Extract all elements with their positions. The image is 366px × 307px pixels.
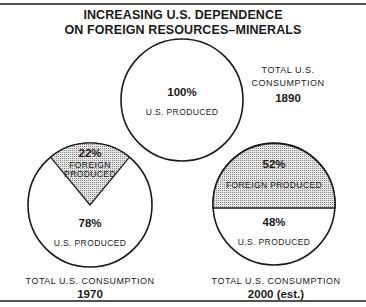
caption-1970-year: 1970 [77, 288, 103, 300]
caption-1890: TOTAL U.S. CONSUMPTION 1890 [252, 65, 325, 104]
pie-1970-foreign-pct: 22% [78, 147, 101, 159]
pie-1890-us-pct: 100% [167, 86, 196, 98]
pie-2000: 52% FOREIGN PRODUCED 48% U.S. PRODUCED [213, 143, 335, 265]
caption-2000-line: TOTAL U.S. CONSUMPTION [212, 276, 341, 286]
pie-1970-us-pct: 78% [78, 217, 101, 229]
chart-title-line2: ON FOREIGN RESOURCES–MINERALS [65, 23, 302, 37]
caption-2000-year: 2000 (est.) [248, 288, 304, 300]
pie-1890-us-slice [121, 39, 243, 161]
pie-2000-us-pct: 48% [262, 216, 285, 228]
chart-title-line1: INCREASING U.S. DEPENDENCE [83, 8, 282, 22]
caption-1890-line2: CONSUMPTION [252, 78, 325, 88]
pie-2000-foreign-pct: 52% [262, 158, 285, 170]
pie-1890-us-label: U.S. PRODUCED [146, 107, 219, 117]
pie-1890: 100% U.S. PRODUCED [121, 39, 243, 161]
pie-1970: 22% FOREIGN PRODUCED 78% U.S. PRODUCED [28, 143, 152, 267]
pie-1970-foreign-label-line2: PRODUCED [64, 169, 116, 179]
pie-2000-us-label: U.S. PRODUCED [238, 237, 311, 247]
pie-2000-foreign-label: FOREIGN PRODUCED [226, 180, 322, 190]
chart-figure: INCREASING U.S. DEPENDENCE ON FOREIGN RE… [0, 0, 366, 307]
caption-1970-line: TOTAL U.S. CONSUMPTION [26, 276, 155, 286]
caption-1890-line1: TOTAL U.S. [262, 65, 315, 75]
pie-2000-foreign-slice [213, 144, 335, 208]
caption-1890-year: 1890 [275, 92, 301, 104]
pie-1970-us-label: U.S. PRODUCED [54, 238, 127, 248]
